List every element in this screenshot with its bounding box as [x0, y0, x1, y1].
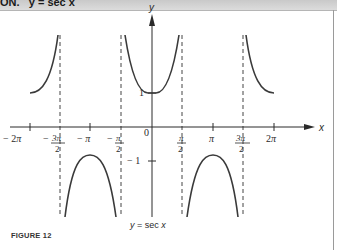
svg-text:2: 2 — [178, 144, 183, 154]
svg-text:2: 2 — [239, 144, 244, 154]
y-tick-label-neg-1: − 1 — [127, 155, 140, 166]
tick-label-neg-3pi-2: − — [43, 133, 49, 144]
x-axis-arrow-icon — [304, 124, 315, 130]
svg-text:3π: 3π — [51, 133, 62, 143]
svg-text:2: 2 — [55, 144, 60, 154]
x-axis-label: x — [318, 122, 325, 133]
tick-label-pi: π — [209, 133, 215, 144]
axes — [10, 20, 308, 217]
y-axis-arrow-icon — [149, 14, 155, 26]
secant-graph: − 2π − 3π 2 − π − π 2 0 π 2 π 3π 2 2π 1 … — [0, 0, 337, 250]
tick-label-2pi: 2π — [266, 133, 277, 144]
figure-label: FIGURE 12 — [11, 231, 52, 240]
graph-caption: y = sec x — [129, 220, 166, 230]
tick-label-3pi-2: 3π — [235, 133, 246, 143]
tick-label-neg-pi-2: − — [107, 133, 113, 144]
y-tick-label-1: 1 — [139, 87, 144, 98]
y-axis-label: y — [148, 2, 155, 13]
tick-labels: − 2π − 3π 2 − π − π 2 0 π 2 π 3π 2 2π 1 … — [3, 2, 325, 166]
tick-label-neg-2pi: − 2π — [3, 133, 22, 144]
svg-text:π: π — [116, 133, 121, 143]
tick-label-zero: 0 — [144, 127, 149, 138]
tick-label-neg-pi: − π — [77, 133, 91, 144]
svg-text:2: 2 — [116, 144, 121, 154]
tick-label-pi-2: π — [179, 133, 184, 143]
